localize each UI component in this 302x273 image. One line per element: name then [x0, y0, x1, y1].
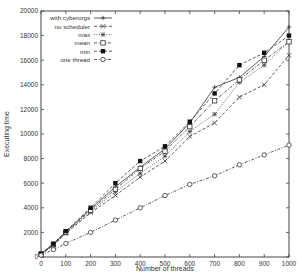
open-circle-marker-icon: [163, 193, 167, 197]
y-axis-label: Executing time: [3, 111, 11, 157]
cross-marker-icon: [262, 83, 266, 87]
open-circle-marker-icon: [51, 247, 55, 251]
y-tick-label: 10000: [20, 130, 38, 137]
open-square-marker-icon: [163, 149, 167, 153]
legend-label: one thread: [60, 56, 90, 63]
open-circle-marker-icon: [212, 174, 216, 178]
legend-item: mean: [75, 39, 112, 46]
x-tick-label: 1000: [282, 260, 297, 267]
filled-square-marker-icon: [138, 159, 142, 163]
y-tick-label: 20000: [20, 7, 38, 14]
filled-square-marker-icon: [163, 144, 167, 148]
axes: 0100200300400500600700800900100002000400…: [20, 7, 297, 267]
x-tick-label: 200: [85, 260, 96, 267]
plus-marker-icon: [101, 16, 105, 20]
open-square-marker-icon: [262, 58, 266, 62]
legend-label: min: [80, 48, 91, 55]
legend-item: no scheduler: [55, 23, 112, 30]
legend-label: mean: [75, 39, 91, 46]
open-square-marker-icon: [101, 41, 105, 45]
filled-square-marker-icon: [88, 206, 92, 210]
x-axis-label: Number of threads: [136, 265, 194, 272]
asterisk-marker-icon: [163, 154, 167, 158]
open-circle-marker-icon: [287, 143, 291, 147]
x-tick-label: 800: [234, 260, 245, 267]
open-square-marker-icon: [287, 40, 291, 44]
asterisk-marker-icon: [188, 129, 192, 133]
series-min: [39, 33, 291, 256]
filled-square-marker-icon: [237, 63, 241, 67]
legend-item: max: [78, 31, 112, 38]
cross-marker-icon: [163, 159, 167, 163]
legend-item: min: [80, 48, 112, 55]
x-tick-label: 300: [110, 260, 121, 267]
open-square-marker-icon: [113, 187, 117, 191]
open-circle-marker-icon: [188, 182, 192, 186]
y-tick-label: 0: [34, 253, 38, 260]
y-tick-label: 16000: [20, 57, 38, 64]
chart-svg: 0100200300400500600700800900100002000400…: [0, 0, 302, 273]
filled-square-marker-icon: [212, 91, 216, 95]
filled-square-marker-icon: [101, 49, 105, 53]
y-tick-label: 2000: [24, 229, 39, 236]
open-circle-marker-icon: [88, 230, 92, 234]
asterisk-marker-icon: [262, 63, 266, 67]
asterisk-marker-icon: [138, 171, 142, 175]
filled-square-marker-icon: [113, 181, 117, 185]
legend-item: one thread: [60, 56, 112, 63]
legend-item: with cyberorgs: [49, 14, 112, 21]
line-chart: 0100200300400500600700800900100002000400…: [0, 0, 302, 273]
asterisk-marker-icon: [212, 112, 216, 116]
open-square-marker-icon: [212, 99, 216, 103]
open-circle-marker-icon: [101, 57, 105, 61]
open-square-marker-icon: [237, 78, 241, 82]
cross-marker-icon: [188, 134, 192, 138]
open-circle-marker-icon: [138, 206, 142, 210]
asterisk-marker-icon: [101, 32, 105, 36]
y-tick-label: 18000: [20, 32, 38, 39]
y-tick-label: 8000: [24, 155, 39, 162]
x-tick-label: 900: [259, 260, 270, 267]
open-square-marker-icon: [188, 124, 192, 128]
open-circle-marker-icon: [237, 163, 241, 167]
plus-marker-icon: [212, 85, 216, 89]
y-tick-label: 12000: [20, 106, 38, 113]
open-circle-marker-icon: [39, 253, 43, 257]
filled-square-marker-icon: [188, 120, 192, 124]
cross-marker-icon: [237, 95, 241, 99]
open-circle-marker-icon: [113, 218, 117, 222]
open-circle-marker-icon: [262, 153, 266, 157]
open-square-marker-icon: [138, 166, 142, 170]
filled-square-marker-icon: [64, 229, 68, 233]
legend-label: no scheduler: [55, 23, 90, 30]
x-tick-label: 100: [60, 260, 71, 267]
y-tick-label: 14000: [20, 81, 38, 88]
cross-marker-icon: [212, 121, 216, 125]
legend: with cyberorgsno schedulermaxmeanminone …: [49, 14, 112, 63]
y-tick-label: 6000: [24, 180, 39, 187]
x-tick-label: 700: [209, 260, 220, 267]
filled-square-marker-icon: [287, 33, 291, 37]
legend-label: max: [78, 31, 91, 38]
filled-square-marker-icon: [51, 242, 55, 246]
legend-label: with cyberorgs: [49, 14, 90, 21]
filled-square-marker-icon: [262, 51, 266, 55]
series-one-thread: [39, 143, 291, 257]
open-circle-marker-icon: [64, 241, 68, 245]
x-tick-label: 0: [39, 260, 43, 267]
y-tick-label: 4000: [24, 204, 39, 211]
